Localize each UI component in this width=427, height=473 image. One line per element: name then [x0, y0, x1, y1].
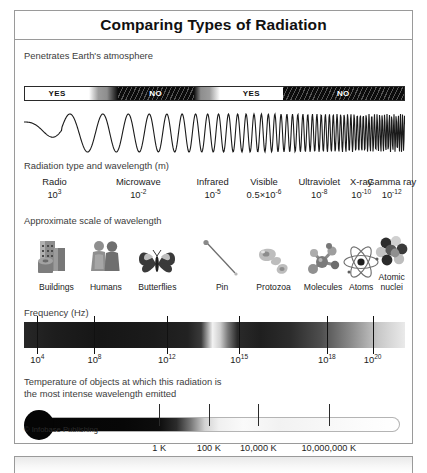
- temperature-tick: [159, 404, 160, 426]
- exponent: -2: [141, 188, 147, 195]
- exponent: 18: [328, 353, 335, 360]
- frequency-tick-label: 1012: [158, 354, 176, 365]
- radiation-type-name: Visible: [247, 176, 282, 188]
- frequency-tick-label: 1018: [318, 354, 336, 365]
- scale-object-atomic-nuclei: Atomic nuclei: [362, 227, 422, 292]
- exponent: 12: [168, 353, 175, 360]
- radiation-type-name: Microwave: [116, 176, 161, 188]
- scale-heading: Approximate scale of wavelength: [24, 215, 162, 227]
- frequency-tick: [94, 316, 95, 354]
- radiation-type-visible: Visible0.5×10-6: [247, 176, 282, 201]
- atmosphere-segment-no: NO: [283, 87, 404, 100]
- radiation-wavelength-value: 10-2: [116, 188, 161, 201]
- copyright-credit: © Infobase Publishing: [24, 425, 98, 434]
- temperature-heading: Temperature of objects at which this rad…: [24, 376, 222, 399]
- temperature-tick: [329, 404, 330, 426]
- title-bar: Comparing Types of Radiation: [15, 11, 412, 40]
- wavelength-waveform: [24, 103, 405, 155]
- exponent: -8: [322, 188, 328, 195]
- poster-body: Penetrates Earth's atmosphere YESNOYESNO…: [15, 40, 412, 444]
- radiation-wavelength-value: 10-5: [196, 188, 228, 201]
- atmosphere-heading: Penetrates Earth's atmosphere: [24, 50, 153, 62]
- frequency-tick-label: 108: [87, 354, 101, 365]
- radiation-type-gamma-ray: Gamma ray10-12: [367, 176, 416, 201]
- exponent: 8: [98, 353, 102, 360]
- exponent: 3: [58, 188, 62, 195]
- frequency-tick: [167, 316, 168, 354]
- radiation-type-infrared: Infrared10-5: [196, 176, 228, 201]
- exponent: -6: [276, 188, 282, 195]
- atomic-nucleus-icon: [362, 227, 422, 271]
- thermometer-stem: [46, 417, 400, 432]
- atmosphere-segment-label: YES: [243, 89, 260, 98]
- poster-frame: Comparing Types of Radiation Penetrates …: [14, 10, 413, 444]
- atmosphere-penetration-bar: YESNOYESNO: [24, 86, 405, 101]
- radiation-type-name: Radio: [42, 176, 67, 188]
- temperature-kelvin: 1 K: [144, 443, 175, 455]
- exponent: -5: [215, 188, 221, 195]
- radiation-wavelength-value: 10-8: [298, 188, 340, 201]
- frequency-tick-label: 104: [30, 354, 44, 365]
- exponent: 15: [241, 353, 248, 360]
- frequency-tick: [373, 316, 374, 354]
- atmosphere-segment-label: YES: [49, 89, 66, 98]
- radiation-wavelength-value: 103: [42, 188, 67, 201]
- bottom-strip: [14, 456, 413, 473]
- radiation-type-name: Ultraviolet: [298, 176, 340, 188]
- radiation-wavelength-value: 0.5×10-6: [247, 188, 282, 201]
- scale-object-label: Atomic nuclei: [362, 273, 422, 292]
- radiation-type-name: Infrared: [196, 176, 228, 188]
- temperature-tick: [258, 404, 259, 426]
- atmosphere-segment-yes: YES: [25, 87, 89, 100]
- radiation-type-ultraviolet: Ultraviolet10-8: [298, 176, 340, 201]
- atmosphere-segment-label: NO: [149, 89, 162, 98]
- temperature-kelvin: 10,000,000 K: [298, 443, 360, 455]
- frequency-tick-label: 1015: [230, 354, 248, 365]
- frequency-tick: [239, 316, 240, 354]
- radiation-wavelength-value: 10-12: [367, 188, 416, 201]
- wavelength-scale-row: Buildings Humans: [24, 228, 405, 292]
- exponent: -12: [392, 188, 402, 195]
- radiation-type-row: Radio103Microwave10-2Infrared10-5Visible…: [24, 176, 405, 212]
- temperature-kelvin: 100 K: [193, 443, 224, 455]
- atmosphere-segment-yes: YES: [220, 87, 283, 100]
- frequency-gradient-bar: [24, 322, 405, 348]
- radiation-heading: Radiation type and wavelength (m): [24, 160, 169, 172]
- radiation-type-microwave: Microwave10-2: [116, 176, 161, 201]
- frequency-tick-label: 1020: [364, 354, 382, 365]
- scale-object-butterflies: Butterflies: [127, 237, 187, 293]
- atmosphere-segment-no: NO: [118, 87, 194, 100]
- atmosphere-segment-fade: [194, 87, 221, 100]
- scale-object-label: Butterflies: [127, 283, 187, 293]
- exponent: 4: [41, 353, 45, 360]
- exponent: 20: [374, 353, 381, 360]
- radiation-type-name: Gamma ray: [367, 176, 416, 188]
- page-title: Comparing Types of Radiation: [100, 16, 326, 34]
- radiation-type-radio: Radio103: [42, 176, 67, 201]
- temperature-tick: [209, 404, 210, 426]
- frequency-tick: [37, 316, 38, 354]
- butterfly-icon: [127, 237, 187, 281]
- temperature-kelvin: 10,000 K: [240, 443, 277, 455]
- atmosphere-segment-label: NO: [337, 89, 350, 98]
- frequency-heading: Frequency (Hz): [24, 307, 89, 319]
- atmosphere-segment-fade: [89, 87, 117, 100]
- frequency-tick: [327, 316, 328, 354]
